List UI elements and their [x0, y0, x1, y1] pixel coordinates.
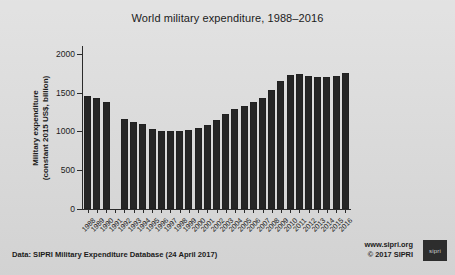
x-tick — [244, 209, 245, 213]
y-axis-title-line2: (constant 2015 US$, billion) — [41, 75, 51, 179]
x-tick — [115, 209, 116, 213]
plot-area: 0500100015002000 19881989199019911992199… — [82, 46, 350, 209]
bar — [277, 81, 284, 209]
bar-slot — [101, 46, 110, 209]
x-tick — [217, 209, 218, 213]
copyright-text: © 2017 SIPRI — [364, 250, 413, 260]
x-tick — [161, 209, 162, 213]
bar — [204, 125, 211, 209]
y-axis-title-line1: Military expenditure — [31, 75, 41, 179]
bar-slot — [203, 46, 212, 209]
bar-slot — [147, 46, 156, 209]
x-tick — [170, 209, 171, 213]
bar-series — [83, 46, 350, 209]
x-tick — [263, 209, 264, 213]
bar-slot — [313, 46, 322, 209]
x-tick — [299, 209, 300, 213]
bar — [342, 73, 349, 209]
bar-slot — [239, 46, 248, 209]
bar-slot — [138, 46, 147, 209]
bar-slot — [193, 46, 202, 209]
bar-slot — [295, 46, 304, 209]
bar — [195, 128, 202, 210]
bar — [158, 131, 165, 209]
y-tick — [77, 131, 82, 132]
bar — [185, 130, 192, 209]
bar-slot — [83, 46, 92, 209]
bar — [130, 122, 137, 209]
x-tick — [309, 209, 310, 213]
y-tick — [77, 54, 82, 55]
bar-slot — [267, 46, 276, 209]
bar-slot — [230, 46, 239, 209]
bar-slot — [322, 46, 331, 209]
x-tick — [226, 209, 227, 213]
bar-slot — [157, 46, 166, 209]
bar-slot — [304, 46, 313, 209]
bar-slot — [111, 46, 120, 209]
x-tick — [207, 209, 208, 213]
source-note: Data: SIPRI Military Expenditure Databas… — [12, 250, 217, 259]
x-tick — [198, 209, 199, 213]
bar — [314, 77, 321, 209]
bar — [305, 76, 312, 210]
bar-slot — [331, 46, 340, 209]
bar — [222, 114, 229, 209]
x-tick — [189, 209, 190, 213]
x-tick — [97, 209, 98, 213]
bar — [139, 124, 146, 209]
website-link[interactable]: www.sipri.org — [364, 240, 413, 250]
bar — [84, 96, 91, 209]
bar — [167, 131, 174, 209]
bar-slot — [129, 46, 138, 209]
y-tick-label: 500 — [61, 165, 75, 175]
x-tick — [106, 209, 107, 213]
bar — [296, 74, 303, 209]
x-tick — [180, 209, 181, 213]
x-tick — [345, 209, 346, 213]
bar — [213, 120, 220, 209]
bar — [268, 90, 275, 209]
bar — [333, 76, 340, 209]
bar — [149, 129, 156, 209]
bar-slot — [184, 46, 193, 209]
sipri-logo-icon: sipri — [423, 240, 447, 261]
y-tick — [77, 93, 82, 94]
y-tick-label: 1000 — [56, 126, 75, 136]
bar-slot — [92, 46, 101, 209]
sipri-logo-text: sipri — [429, 248, 441, 254]
bar — [323, 77, 330, 209]
y-tick — [77, 209, 82, 210]
x-tick — [336, 209, 337, 213]
chart-figure: World military expenditure, 1988–2016 Mi… — [0, 0, 455, 275]
y-axis-title: Military expenditure (constant 2015 US$,… — [24, 46, 58, 209]
chart-title: World military expenditure, 1988–2016 — [0, 12, 455, 24]
bar — [250, 102, 257, 209]
y-tick — [77, 170, 82, 171]
x-tick — [290, 209, 291, 213]
x-tick — [124, 209, 125, 213]
bar-slot — [212, 46, 221, 209]
bar — [121, 119, 128, 209]
bar-slot — [341, 46, 350, 209]
bar-slot — [285, 46, 294, 209]
bar-slot — [166, 46, 175, 209]
y-tick-label: 0 — [70, 204, 75, 214]
x-tick — [281, 209, 282, 213]
bar — [231, 109, 238, 209]
x-tick — [327, 209, 328, 213]
bar-slot — [175, 46, 184, 209]
bar-slot — [276, 46, 285, 209]
bar-slot — [258, 46, 267, 209]
y-tick-label: 2000 — [56, 49, 75, 59]
bar-slot — [120, 46, 129, 209]
credits: www.sipri.org © 2017 SIPRI — [364, 240, 413, 260]
bar — [103, 102, 110, 209]
x-tick — [134, 209, 135, 213]
bar — [176, 131, 183, 209]
x-tick — [88, 209, 89, 213]
bar — [259, 98, 266, 209]
bar-slot — [249, 46, 258, 209]
bar — [287, 75, 294, 209]
x-tick — [143, 209, 144, 213]
